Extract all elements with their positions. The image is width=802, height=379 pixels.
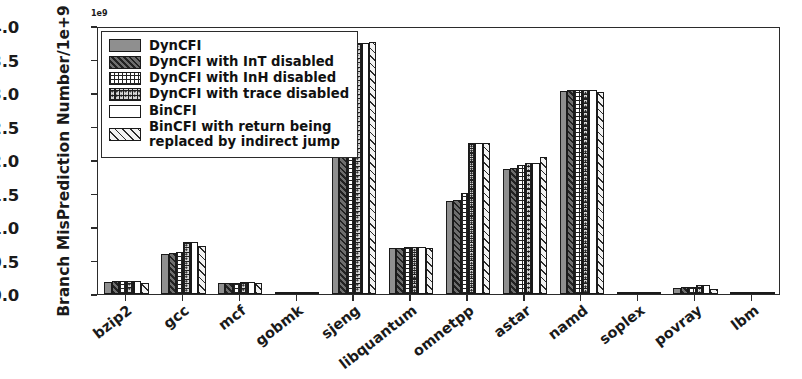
x-axis-tick-mark xyxy=(523,295,524,301)
bar xyxy=(362,43,369,294)
bar xyxy=(461,193,468,294)
y-axis-tick-label: 3.0 xyxy=(0,85,19,104)
x-axis-tick-mark xyxy=(409,295,410,301)
bar xyxy=(446,201,453,294)
bar xyxy=(418,247,425,294)
y-axis-tick-label: 1.0 xyxy=(0,219,19,238)
y-axis-tick-mark xyxy=(91,127,97,128)
legend-swatch xyxy=(109,56,141,69)
bar xyxy=(639,292,646,294)
bar-group xyxy=(730,28,774,294)
y-axis-tick-mark xyxy=(91,160,97,161)
bar xyxy=(532,163,539,294)
bar xyxy=(503,169,510,294)
bar xyxy=(574,90,581,294)
bar xyxy=(134,281,141,294)
bar xyxy=(525,163,532,294)
y-axis-exponent-label: 1e9 xyxy=(91,9,108,18)
bar xyxy=(141,283,148,294)
bar-group xyxy=(673,28,717,294)
bar xyxy=(738,292,745,294)
bar xyxy=(396,248,403,294)
bar xyxy=(760,292,767,294)
bar xyxy=(282,292,289,294)
bar xyxy=(240,282,247,294)
x-axis-tick-mark xyxy=(125,295,126,301)
legend-label: DynCFI with InT disabled xyxy=(149,55,334,70)
bar xyxy=(126,281,133,294)
bar xyxy=(703,285,710,294)
bar xyxy=(468,143,475,294)
bar xyxy=(483,143,490,294)
bar xyxy=(297,292,304,294)
bar xyxy=(582,90,589,294)
bar xyxy=(176,252,183,294)
bar xyxy=(183,242,190,294)
bar xyxy=(255,283,262,294)
y-axis-tick-mark xyxy=(91,261,97,262)
bar xyxy=(730,292,737,294)
bar xyxy=(631,292,638,294)
x-axis-tick-mark xyxy=(694,295,695,301)
legend-label: BinCFI with return being replaced by ind… xyxy=(149,120,340,150)
bar xyxy=(411,247,418,294)
x-axis-tick-mark xyxy=(239,295,240,301)
bar xyxy=(475,143,482,294)
y-axis-tick-label: 2.0 xyxy=(0,152,19,171)
bar xyxy=(510,168,517,294)
legend-swatch xyxy=(109,88,141,101)
y-axis-tick-label: 3.5 xyxy=(0,51,19,70)
y-axis-tick-label: 0.0 xyxy=(0,286,19,305)
y-axis-tick-label: 4.0 xyxy=(0,18,19,37)
legend-item: BinCFI xyxy=(109,104,349,119)
y-axis-tick-mark xyxy=(91,93,97,94)
legend-label: DynCFI xyxy=(149,39,202,54)
legend-label: DynCFI with trace disabled xyxy=(149,87,349,102)
bar xyxy=(389,248,396,294)
x-axis-tick-mark xyxy=(352,295,353,301)
y-axis-tick-label: 0.5 xyxy=(0,252,19,271)
legend-swatch xyxy=(109,72,141,85)
bar xyxy=(369,42,376,294)
bar xyxy=(710,289,717,294)
bar xyxy=(225,283,232,294)
legend-item: DynCFI with trace disabled xyxy=(109,87,349,102)
bar xyxy=(624,292,631,294)
bar xyxy=(233,283,240,294)
bar xyxy=(218,283,225,294)
bar xyxy=(646,292,653,294)
figure-canvas: Branch MisPrediction Number/1e+9 1e9 Dyn… xyxy=(0,0,802,379)
bar xyxy=(597,92,604,294)
bar xyxy=(653,292,660,294)
legend-swatch xyxy=(109,105,141,118)
y-axis-tick-mark xyxy=(91,194,97,195)
y-axis-tick-mark xyxy=(91,60,97,61)
legend-item: DynCFI xyxy=(109,39,349,54)
bar xyxy=(560,91,567,294)
bar xyxy=(312,292,319,294)
bar-group xyxy=(560,28,604,294)
y-axis-tick-mark xyxy=(91,294,97,295)
bar xyxy=(191,242,198,294)
legend-item: DynCFI with InH disabled xyxy=(109,71,349,86)
bar xyxy=(617,292,624,294)
bar xyxy=(567,90,574,294)
bar xyxy=(290,292,297,294)
bar xyxy=(104,282,111,294)
legend-item: BinCFI with return being replaced by ind… xyxy=(109,120,349,150)
bar xyxy=(198,246,205,294)
bar xyxy=(248,282,255,294)
bar xyxy=(161,254,168,294)
x-axis-tick-mark xyxy=(637,295,638,301)
bar-group xyxy=(389,28,433,294)
bar xyxy=(169,253,176,294)
legend-label: BinCFI xyxy=(149,104,197,119)
x-axis-tick-mark xyxy=(580,295,581,301)
bar xyxy=(753,292,760,294)
x-axis-tick-mark xyxy=(466,295,467,301)
bar xyxy=(426,248,433,294)
bar xyxy=(673,288,680,294)
x-axis-tick-mark xyxy=(751,295,752,301)
x-axis-tick-label: lbm xyxy=(657,302,761,379)
bar xyxy=(681,287,688,294)
